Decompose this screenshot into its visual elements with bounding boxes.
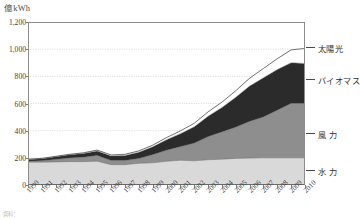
plot-border — [28, 22, 305, 185]
series-label-wind: 風 力 — [318, 128, 337, 140]
y-tick-200: 200 — [2, 154, 26, 163]
x-axis-labels: 1990199119921993199419951996199719981999… — [0, 186, 353, 212]
series-label-group: 太陽光 バイオマス 風 力 水 力 — [306, 0, 353, 200]
leader-line-solar — [306, 47, 315, 48]
y-tick-1000: 1,000 — [2, 45, 26, 54]
series-label-hydro: 水 力 — [318, 165, 337, 177]
y-axis-tick-group: 1,200 1,000 800 600 400 200 0 — [0, 0, 26, 186]
series-label-biomass: バイオマス — [318, 74, 360, 86]
leader-line-biomass — [306, 79, 315, 80]
y-tick-400: 400 — [2, 127, 26, 136]
source-footnote: 資料： — [3, 210, 18, 217]
leader-line-wind — [306, 133, 315, 134]
y-tick-800: 800 — [2, 72, 26, 81]
y-tick-1200: 1,200 — [2, 18, 26, 27]
y-tick-600: 600 — [2, 100, 26, 109]
plot-area — [28, 22, 305, 185]
leader-line-hydro — [306, 170, 315, 171]
series-label-solar: 太陽光 — [318, 42, 343, 54]
